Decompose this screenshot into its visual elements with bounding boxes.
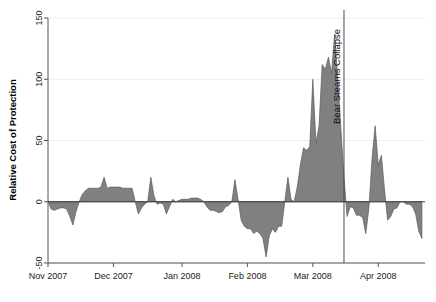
x-tick-label: Apr 2008 bbox=[360, 271, 397, 281]
y-tick-label: 150 bbox=[34, 10, 44, 25]
x-tick-label: Mar 2008 bbox=[294, 271, 332, 281]
bear-stearns-collapse-label: Bear Stearns Collapse bbox=[331, 29, 342, 124]
chart-figure: Bear Stearns Collapse -50050100150 Nov 2… bbox=[0, 0, 436, 302]
y-tick-label: 0 bbox=[34, 199, 44, 204]
x-tick-label: Feb 2008 bbox=[228, 271, 266, 281]
y-axis-title: Relative Cost of Protection bbox=[7, 79, 18, 201]
x-tick-label: Jan 2008 bbox=[163, 271, 200, 281]
relative-cost-of-protection-area-chart: Bear Stearns Collapse -50050100150 Nov 2… bbox=[0, 0, 436, 302]
chart-background bbox=[0, 0, 436, 302]
x-tick-label: Nov 2007 bbox=[29, 271, 68, 281]
x-tick-label: Dec 2007 bbox=[94, 271, 133, 281]
y-tick-label: 100 bbox=[34, 72, 44, 87]
y-tick-label: -50 bbox=[34, 256, 44, 269]
y-tick-label: 50 bbox=[34, 135, 44, 145]
